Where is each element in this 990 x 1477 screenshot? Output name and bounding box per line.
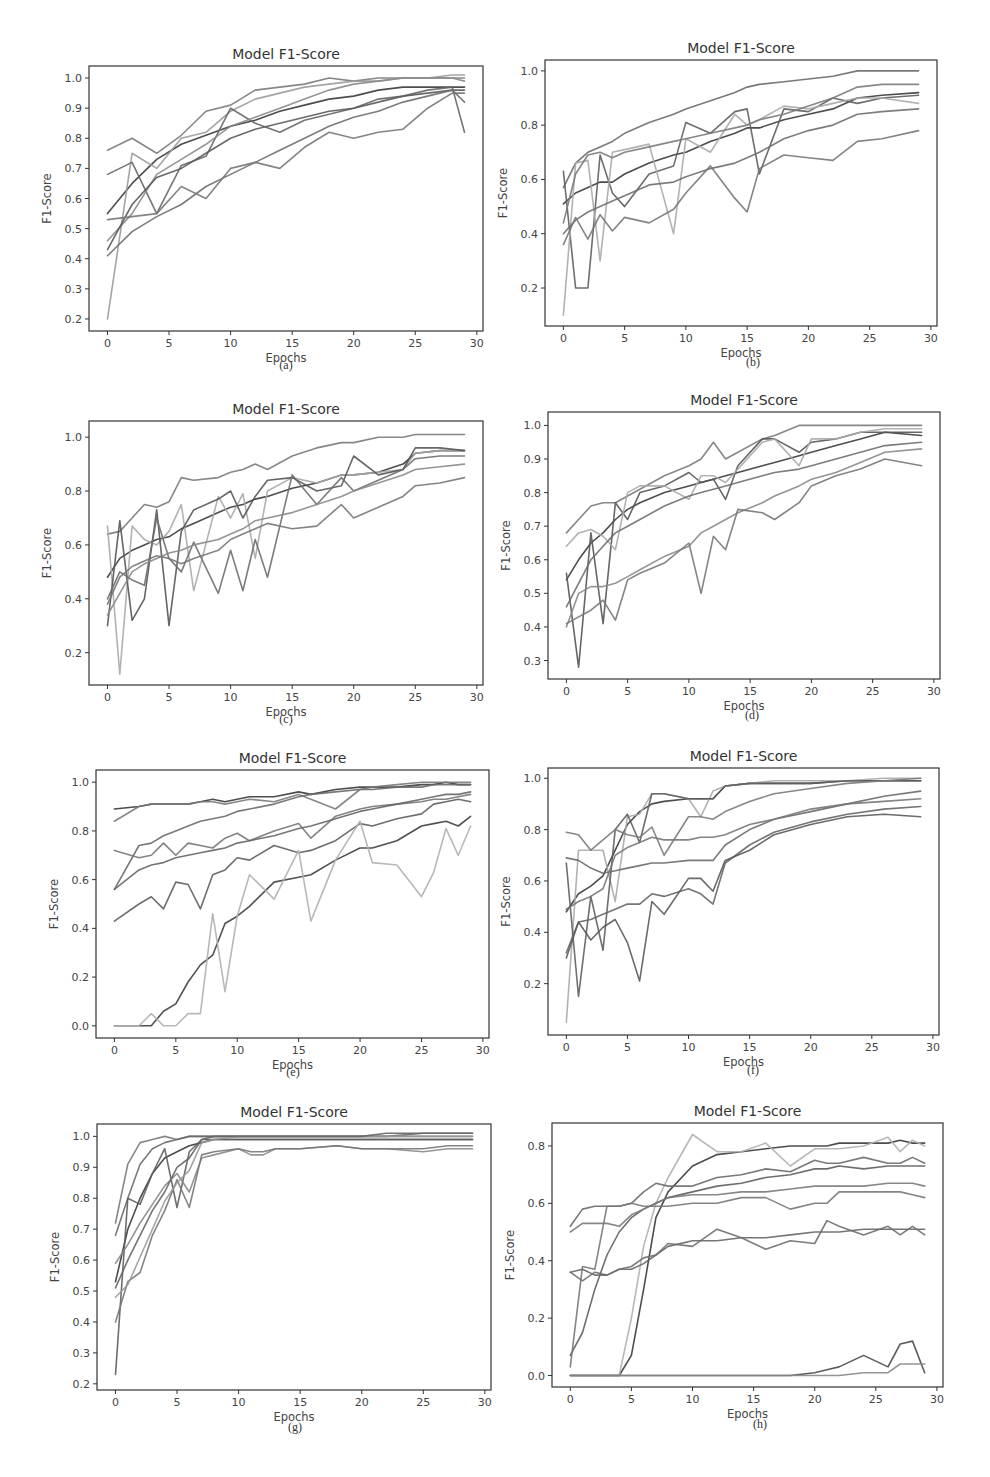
y-tick-label: 0.3 <box>524 655 542 668</box>
x-tick-label: 15 <box>293 1396 307 1409</box>
x-tick-label: 30 <box>478 1396 492 1409</box>
x-tick-label: 10 <box>232 1396 246 1409</box>
x-tick-label: 0 <box>567 1393 574 1406</box>
x-tick-label: 30 <box>930 1393 944 1406</box>
chart-panel-b: Model F1-Score0510152025300.20.40.60.81.… <box>485 30 947 376</box>
x-tick-label: 0 <box>104 691 111 704</box>
x-tick-label: 0 <box>104 337 111 350</box>
x-tick-label: 15 <box>743 685 757 698</box>
series-line-run-4 <box>566 778 920 855</box>
y-tick-label: 0.8 <box>73 1192 91 1205</box>
x-tick-label: 0 <box>112 1396 119 1409</box>
x-tick-label: 20 <box>804 685 818 698</box>
x-tick-label: 20 <box>804 1041 818 1054</box>
x-tick-label: 15 <box>740 332 754 345</box>
plot-frame <box>548 768 939 1035</box>
y-tick-label: 0.7 <box>524 520 542 533</box>
y-axis-label: F1-Score <box>499 520 513 570</box>
x-tick-label: 5 <box>172 1044 179 1057</box>
x-tick-label: 10 <box>230 1044 244 1057</box>
x-tick-label: 20 <box>347 691 361 704</box>
x-tick-label: 5 <box>166 691 173 704</box>
x-tick-label: 5 <box>624 1041 631 1054</box>
y-tick-label: 0.5 <box>65 223 83 236</box>
cropped-caption-text <box>0 1470 990 1477</box>
x-tick-label: 5 <box>174 1396 181 1409</box>
y-axis-label: F1-Score <box>499 876 513 926</box>
y-tick-label: 1.0 <box>65 72 83 85</box>
y-tick-label: 0.6 <box>528 1197 546 1210</box>
y-tick-label: 1.0 <box>524 772 542 785</box>
series-line-run-2 <box>116 1140 473 1282</box>
plot-frame <box>97 1124 491 1390</box>
plot-frame <box>96 770 489 1038</box>
caption-a: (a) <box>266 358 306 373</box>
y-tick-label: 0.2 <box>521 282 539 295</box>
series-line-run-6 <box>566 449 921 627</box>
x-tick-label: 20 <box>353 1044 367 1057</box>
y-tick-label: 0.2 <box>65 313 83 326</box>
y-axis-label: F1-Score <box>496 168 510 218</box>
series-line-run-3 <box>108 451 465 675</box>
series-line-run-6 <box>563 109 918 234</box>
series-group <box>563 71 918 315</box>
y-axis-label: F1-Score <box>40 528 54 578</box>
caption-f: (f) <box>733 1063 773 1078</box>
y-tick-label: 0.5 <box>524 587 542 600</box>
plot-frame <box>548 412 940 679</box>
chart-panel-a: Model F1-Score0510152025300.20.30.40.50.… <box>29 36 493 381</box>
y-axis-label: F1-Score <box>40 173 54 223</box>
series-line-run-1 <box>570 1140 924 1375</box>
series-line-run-4 <box>566 429 921 550</box>
y-tick-label: 0.0 <box>72 1020 90 1033</box>
y-tick-label: 0.8 <box>65 485 83 498</box>
x-tick-label: 25 <box>865 1041 879 1054</box>
chart-panel-c: Model F1-Score0510152025300.20.40.60.81.… <box>29 391 493 735</box>
y-tick-label: 0.2 <box>73 1378 91 1391</box>
y-tick-label: 0.2 <box>72 971 90 984</box>
series-line-run-8 <box>566 814 920 981</box>
chart-panel-f: Model F1-Score0510152025300.20.40.60.81.… <box>488 738 949 1085</box>
y-tick-label: 1.0 <box>524 419 542 432</box>
series-line-run-2 <box>563 93 918 204</box>
series-line-run-5 <box>566 442 921 607</box>
y-tick-label: 1.0 <box>521 65 539 78</box>
y-tick-label: 0.9 <box>73 1161 91 1174</box>
y-axis-label: F1-Score <box>503 1230 517 1280</box>
series-line-run-5 <box>116 1146 473 1264</box>
series-line-run-4 <box>116 1140 473 1375</box>
x-tick-label: 10 <box>224 337 238 350</box>
x-tick-label: 15 <box>747 1393 761 1406</box>
series-line-run-3 <box>563 95 918 288</box>
series-line-run-2 <box>570 1135 924 1376</box>
series-line-run-4 <box>108 448 465 626</box>
x-tick-label: 5 <box>624 685 631 698</box>
caption-h: (h) <box>740 1417 780 1432</box>
chart-title: Model F1-Score <box>239 750 347 766</box>
y-tick-label: 0.8 <box>521 119 539 132</box>
x-tick-label: 25 <box>869 1393 883 1406</box>
series-line-run-7 <box>566 459 921 624</box>
x-tick-label: 25 <box>408 337 422 350</box>
x-tick-label: 0 <box>560 332 567 345</box>
x-tick-label: 30 <box>470 337 484 350</box>
series-line-run-5 <box>563 84 918 223</box>
x-tick-label: 5 <box>621 332 628 345</box>
x-tick-label: 10 <box>224 691 238 704</box>
series-group <box>116 1133 473 1374</box>
x-tick-label: 25 <box>416 1396 430 1409</box>
x-tick-label: 5 <box>628 1393 635 1406</box>
y-axis-label: F1-Score <box>48 1232 62 1282</box>
y-axis-label: F1-Score <box>47 879 61 929</box>
series-line-run-6 <box>570 1192 924 1367</box>
y-tick-label: 0.6 <box>524 875 542 888</box>
chart-title: Model F1-Score <box>690 392 798 408</box>
series-line-run-4 <box>570 1166 924 1355</box>
chart-title: Model F1-Score <box>694 1103 802 1119</box>
y-tick-label: 0.4 <box>65 253 83 266</box>
caption-e: (e) <box>273 1065 313 1080</box>
x-tick-label: 25 <box>414 1044 428 1057</box>
x-tick-label: 0 <box>563 1041 570 1054</box>
series-group <box>570 1135 924 1376</box>
y-tick-label: 1.0 <box>72 776 90 789</box>
